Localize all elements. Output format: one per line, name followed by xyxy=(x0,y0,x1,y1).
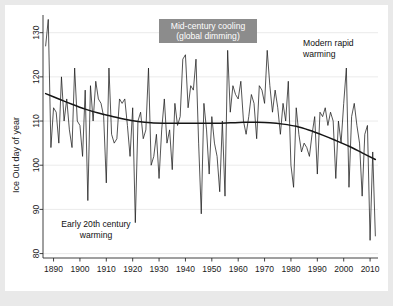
y-axis-title: Ice Out day of year xyxy=(11,117,21,193)
x-tick-label: 1900 xyxy=(70,264,89,274)
y-axis-ticks: 8090100110120130 xyxy=(31,25,43,258)
y-tick-label: 110 xyxy=(31,114,41,128)
annotation-mid-century-line1: Mid-century cooling xyxy=(171,21,246,31)
y-tick-label: 130 xyxy=(31,25,41,39)
x-tick-label: 2000 xyxy=(334,264,353,274)
x-tick-label: 1990 xyxy=(308,264,327,274)
x-tick-label: 1970 xyxy=(255,264,274,274)
chart-panel: 8090100110120130 18901900191019201930194… xyxy=(5,5,388,291)
y-tick-label: 90 xyxy=(31,204,41,214)
annotation-mid-century-cooling: Mid-century cooling (global dimming) xyxy=(159,19,257,43)
annotation-early-line1: Early 20th century xyxy=(61,219,131,229)
y-tick-label: 80 xyxy=(31,249,41,259)
x-axis-ticks: 1890190019101920193019401950196019701980… xyxy=(44,258,380,274)
x-tick-label: 1940 xyxy=(176,264,195,274)
annotation-modern-rapid-warming: Modern rapid warming xyxy=(302,38,354,59)
y-tick-label: 120 xyxy=(31,69,41,83)
annotation-modern-line2: warming xyxy=(302,49,336,59)
x-tick-label: 1930 xyxy=(150,264,169,274)
x-tick-label: 1960 xyxy=(229,264,248,274)
x-tick-label: 1910 xyxy=(97,264,116,274)
x-tick-label: 1890 xyxy=(44,264,63,274)
ice-out-line-chart: 8090100110120130 18901900191019201930194… xyxy=(5,5,388,291)
x-tick-label: 1920 xyxy=(123,264,142,274)
annotation-early-line2: warming xyxy=(79,230,113,240)
figure-container: 8090100110120130 18901900191019201930194… xyxy=(0,0,393,306)
x-tick-label: 1980 xyxy=(281,264,300,274)
x-tick-label: 1950 xyxy=(202,264,221,274)
annotation-modern-line1: Modern rapid xyxy=(303,38,354,48)
annotation-mid-century-line2: (global dimming) xyxy=(176,31,240,41)
x-tick-label: 2010 xyxy=(361,264,380,274)
y-tick-label: 100 xyxy=(31,158,41,172)
annotation-early-20th-century-warming: Early 20th century warming xyxy=(61,219,131,240)
